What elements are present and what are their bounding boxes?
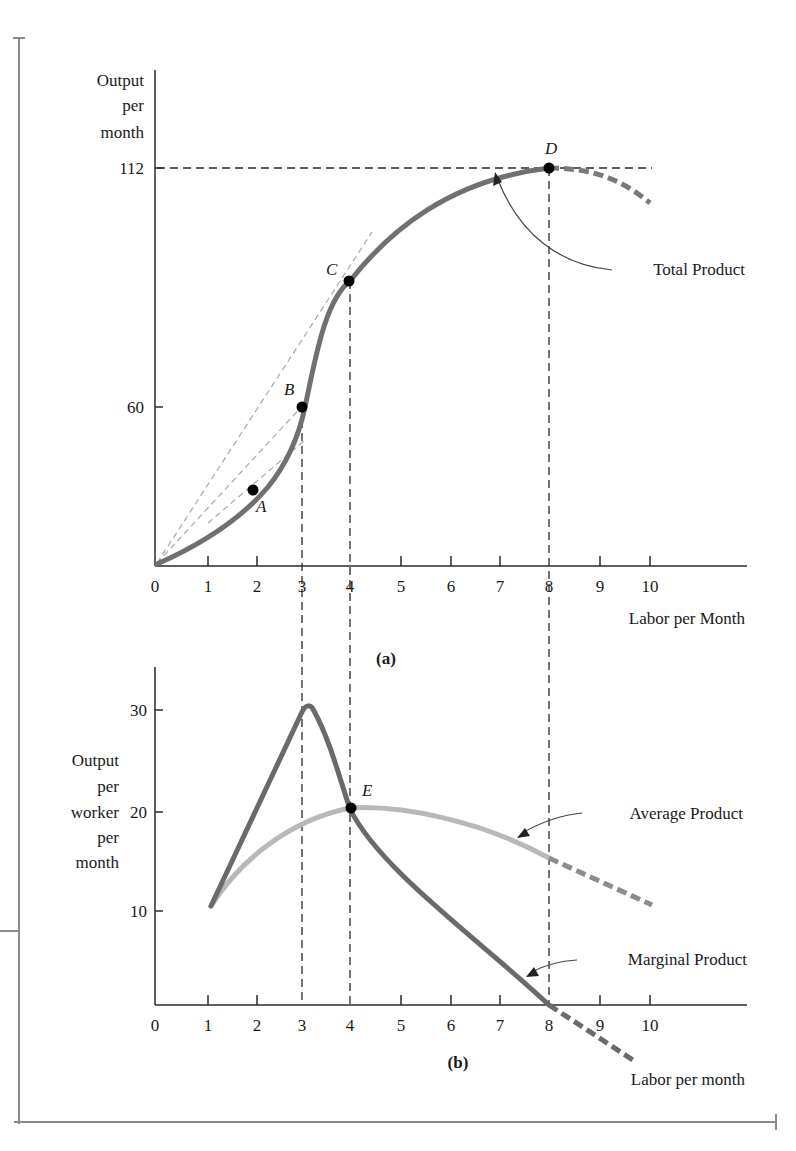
x-tick-7: 7 [496,577,505,596]
point-c [344,276,355,287]
x-tick-0: 0 [151,577,160,596]
average-product-arrow [522,813,582,833]
point-c-label: C [326,260,338,279]
y-tick-30: 30 [130,701,147,720]
marginal-product-curve [211,706,549,1005]
average-product-label: Average Product [630,804,744,823]
x-tick-b-5: 5 [397,1016,406,1035]
x-tick-6: 6 [447,577,456,596]
total-product-curve [157,168,549,564]
total-product-curve-dashed [549,168,650,203]
y-axis-label-b-line1: Output [72,751,120,770]
x-tick-3: 3 [298,577,307,596]
x-tick-b-4: 4 [346,1016,355,1035]
point-a [248,485,259,496]
x-tick-b-2: 2 [253,1016,262,1035]
total-product-label: Total Product [653,260,745,279]
x-tick-9: 9 [596,577,605,596]
marginal-product-label: Marginal Product [628,950,747,969]
y-axis-label-b-line2: per [97,777,119,796]
y-axis-label-line1: Output [97,71,145,90]
x-tick-b-9: 9 [596,1016,605,1035]
x-tick-1: 1 [204,577,213,596]
total-product-arrow [498,180,612,270]
y-axis-label-b-line5: month [76,853,120,872]
arrowhead-icon [526,967,539,977]
point-b [297,402,308,413]
axes-a [155,70,747,566]
point-e [346,803,357,814]
labels-b: Output per worker per month 30 20 10 0 1… [71,701,747,1089]
x-tick-b-10: 10 [642,1016,659,1035]
marginal-product-curve-dashed [549,1005,636,1062]
caption-b: (b) [448,1053,469,1072]
x-tick-b-7: 7 [496,1016,505,1035]
point-d [544,163,555,174]
x-tick-2: 2 [253,577,262,596]
x-tick-b-1: 1 [204,1016,213,1035]
x-tick-b-8: 8 [545,1016,554,1035]
x-axis-label-b: Labor per month [631,1070,746,1089]
y-tick-10: 10 [130,902,147,921]
caption-a: (a) [376,649,396,668]
y-axis-label-line2: per [122,96,144,115]
point-a-label: A [255,497,267,516]
x-tick-b-3: 3 [298,1016,307,1035]
x-tick-b-6: 6 [447,1016,456,1035]
y-tick-20: 20 [130,803,147,822]
labels-a: Output per month 112 60 0 1 2 3 4 5 6 7 … [97,71,746,668]
x-tick-10: 10 [642,577,659,596]
x-tick-4: 4 [346,577,355,596]
y-axis-label-b-line4: per [97,828,119,847]
marginal-product-arrow [532,960,577,972]
chart-b [155,667,747,1062]
x-tick-8: 8 [545,577,554,596]
average-product-curve-dashed [549,858,652,905]
x-axis-label: Labor per Month [629,609,746,628]
point-b-label: B [284,380,295,399]
production-function-figure: Output per month 112 60 0 1 2 3 4 5 6 7 … [0,0,796,1151]
y-tick-112: 112 [119,159,144,178]
point-d-label: D [544,139,558,158]
y-axis-label-b-line3: worker [71,803,119,822]
x-tick-5: 5 [397,577,406,596]
y-axis-label-line3: month [101,123,145,142]
y-tick-60: 60 [127,398,144,417]
x-tick-b-0: 0 [151,1016,160,1035]
point-e-label: E [361,781,373,800]
average-product-curve [211,808,549,906]
